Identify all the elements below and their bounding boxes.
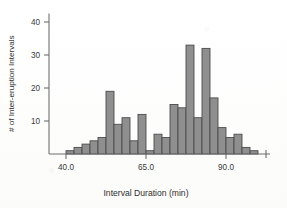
histogram-bar (194, 118, 202, 154)
histogram-bar (162, 138, 170, 155)
x-tick-label: 40.0 (58, 163, 74, 172)
histogram-bar (202, 48, 210, 154)
histogram-bar (74, 147, 82, 154)
x-axis-title: Interval Duration (min) (103, 188, 188, 198)
histogram-bar (82, 144, 90, 154)
labels-group: 1020304040.065.090.0Interval Duration (m… (7, 18, 234, 198)
histogram-bar (218, 128, 226, 154)
histogram-bar (98, 138, 106, 155)
histogram-bar (186, 45, 194, 154)
histogram-bar (138, 114, 146, 154)
histogram-bar (226, 138, 234, 155)
x-tick-label: 65.0 (138, 163, 154, 172)
histogram-figure: 1020304040.065.090.0Interval Duration (m… (0, 0, 287, 208)
histogram-bar (210, 98, 218, 154)
histogram-bar (154, 134, 162, 154)
y-tick-label: 10 (31, 117, 41, 126)
histogram-bar (178, 108, 186, 154)
histogram-bar (170, 105, 178, 155)
histogram-bar (234, 134, 242, 154)
y-tick-label: 20 (31, 84, 41, 93)
histogram-bar (242, 147, 250, 154)
x-tick-label: 90.0 (218, 163, 234, 172)
histogram-plot: 1020304040.065.090.0Interval Duration (m… (0, 0, 287, 208)
y-tick-label: 40 (31, 18, 41, 27)
bars-group (66, 45, 258, 154)
histogram-bar (122, 118, 130, 154)
histogram-bar (114, 124, 122, 154)
y-axis-title: # of Inter-eruption Intervals (7, 35, 16, 132)
histogram-bar (90, 141, 98, 154)
histogram-bar (106, 91, 114, 154)
y-tick-label: 30 (31, 51, 41, 60)
histogram-bar (130, 141, 138, 154)
